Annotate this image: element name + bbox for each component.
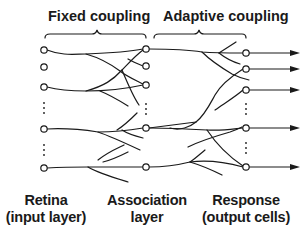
arrow-icon	[290, 50, 300, 56]
retina-title: Retina	[0, 192, 92, 209]
arrow-icon	[290, 164, 300, 170]
fixed-coupling-brace	[45, 30, 146, 38]
retina-node	[41, 84, 47, 90]
response-subtitle: (output cells)	[199, 209, 293, 226]
retina-subtitle: (input layer)	[0, 209, 92, 226]
response-node	[243, 50, 249, 56]
response-node	[243, 164, 249, 170]
association-node	[143, 82, 149, 88]
association-subtitle: layer	[104, 209, 190, 226]
association-nodes	[143, 46, 149, 170]
association-node	[143, 46, 149, 52]
output-arrowheads	[290, 50, 300, 170]
response-node	[243, 66, 249, 72]
response-node	[243, 125, 249, 131]
response-title: Response	[199, 192, 293, 209]
retina-node	[41, 64, 47, 70]
association-title: Association	[104, 192, 190, 209]
response-node	[243, 87, 249, 93]
association-node	[143, 125, 149, 131]
arrow-icon	[290, 125, 300, 131]
arrow-icon	[290, 87, 300, 93]
response-label: Response (output cells)	[199, 192, 293, 226]
retina-node	[41, 165, 47, 171]
adaptive-coupling-brace	[154, 30, 246, 38]
retina-label: Retina (input layer)	[0, 192, 92, 226]
retina-nodes	[41, 47, 47, 171]
arrow-icon	[290, 66, 300, 72]
retina-node	[41, 47, 47, 53]
association-label: Association layer	[104, 192, 190, 226]
retina-node	[41, 126, 47, 132]
association-node	[143, 63, 149, 69]
association-node	[143, 164, 149, 170]
